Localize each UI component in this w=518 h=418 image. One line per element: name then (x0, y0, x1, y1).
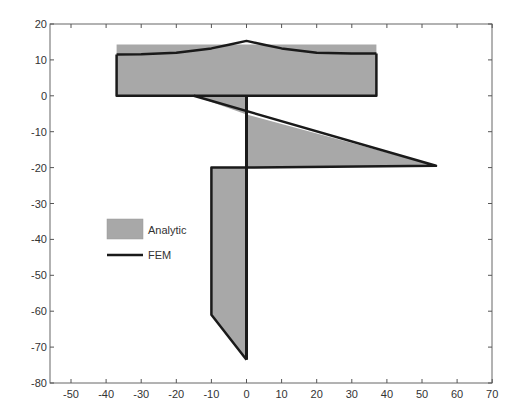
chart: -50-40-30-20-10010203040506070 20100-10-… (0, 0, 518, 418)
x-tick-label: -50 (63, 388, 79, 400)
y-tick-label: -10 (31, 126, 47, 138)
x-tick-label: -30 (133, 388, 149, 400)
y-tick-label: -60 (31, 305, 47, 317)
x-tick-label: -10 (203, 388, 219, 400)
x-tick-label: 20 (311, 388, 323, 400)
y-tick-label: -20 (31, 162, 47, 174)
x-tick-label: 50 (416, 388, 428, 400)
legend-analytic-swatch (107, 219, 143, 239)
y-tick-label: 10 (35, 54, 47, 66)
y-tick-label: 20 (35, 18, 47, 30)
legend-analytic-label: Analytic (148, 224, 187, 236)
x-tick-label: 30 (346, 388, 358, 400)
x-tick-label: -40 (98, 388, 114, 400)
x-tick-label: -20 (168, 388, 184, 400)
y-tick-label: -30 (31, 198, 47, 210)
y-tick-label: -80 (31, 377, 47, 389)
legend-fem-label: FEM (148, 249, 171, 261)
x-tick-label: 0 (243, 388, 249, 400)
x-tick-label: 40 (381, 388, 393, 400)
x-tick-label: 70 (486, 388, 498, 400)
x-tick-label: 60 (451, 388, 463, 400)
y-tick-label: -70 (31, 341, 47, 353)
y-tick-label: 0 (41, 90, 47, 102)
y-tick-label: -50 (31, 269, 47, 281)
x-tick-label: 10 (275, 388, 287, 400)
y-tick-label: -40 (31, 233, 47, 245)
